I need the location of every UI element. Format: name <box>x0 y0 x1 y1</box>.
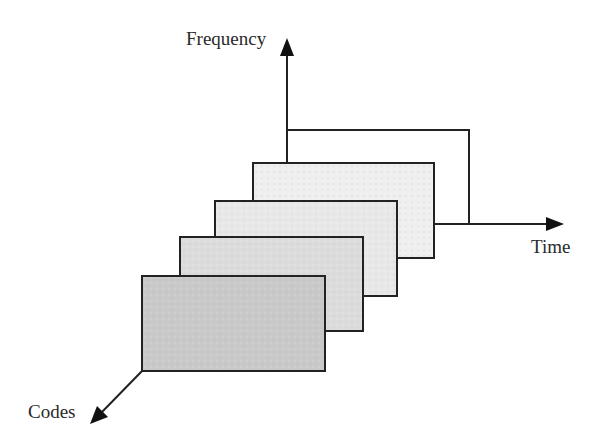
frequency-axis <box>280 38 294 130</box>
frequency-arrowhead-icon <box>280 38 294 56</box>
frame-front <box>142 276 325 371</box>
codes-axis-label: Codes <box>28 401 76 423</box>
frequency-axis-label: Frequency <box>186 28 266 50</box>
time-axis-label: Time <box>531 236 570 258</box>
codes-axis <box>90 371 142 424</box>
code-time-frequency-diagram <box>0 0 605 447</box>
time-arrowhead-icon <box>546 217 564 231</box>
